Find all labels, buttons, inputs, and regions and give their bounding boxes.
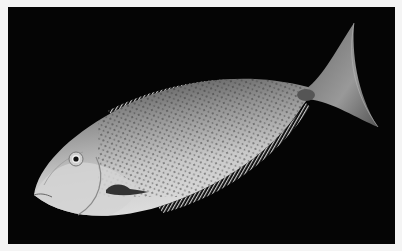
photo-frame: [0, 0, 402, 251]
eye: [69, 152, 83, 166]
photograph: [8, 7, 395, 244]
fish-illustration: [8, 7, 395, 244]
tail-fin: [306, 23, 378, 127]
